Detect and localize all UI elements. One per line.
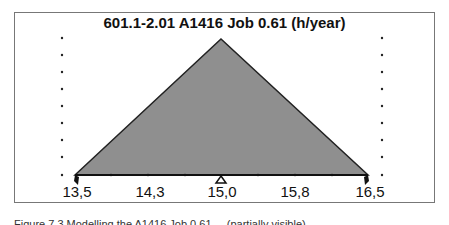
x-tick-label: 16,5 [355,183,384,200]
triangle-distribution-area [75,39,368,175]
left-dots [61,37,63,176]
mean-marker-icon [216,176,226,183]
right-dots [381,37,383,176]
x-tick-label: 14,3 [135,183,164,200]
x-tick-label: 15,8 [280,183,309,200]
x-tick-label: 13,5 [62,183,91,200]
figure-caption: Figure 7.3 Modelling the A1416 Job 0.61 … [14,218,306,225]
x-tick-label: 15,0 [207,183,236,200]
